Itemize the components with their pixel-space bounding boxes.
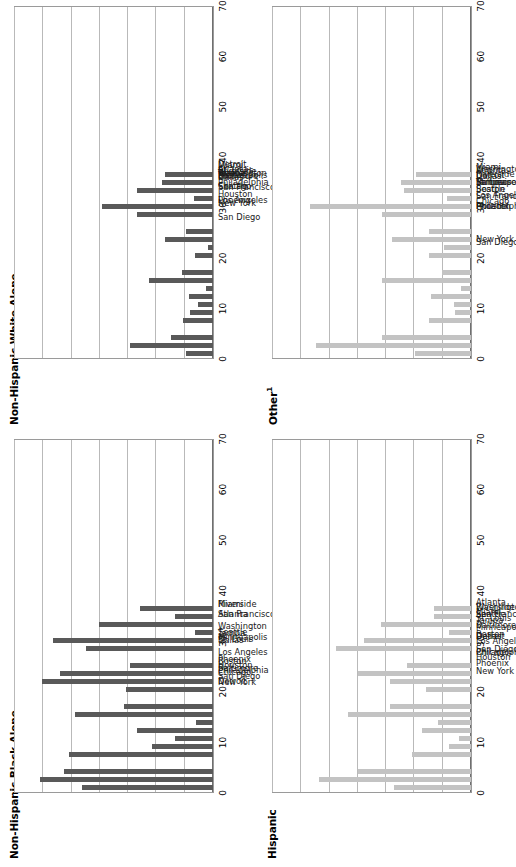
bar-group — [273, 605, 471, 653]
bar — [64, 770, 213, 775]
bar — [102, 205, 213, 210]
group-spacer — [273, 219, 471, 228]
bar — [186, 352, 213, 357]
bar — [99, 623, 213, 628]
category-axis-labels: BostonNew YorkPhiladelphiaBaltimoreWashi… — [216, 6, 258, 359]
category-label: Minneapolis — [476, 622, 516, 632]
bar-group — [15, 269, 213, 325]
category-label: Seattle — [476, 609, 505, 619]
bar — [69, 753, 213, 758]
panel-non-hispanic-black-alone: Non-Hispanic Black Alone 010203040506070… — [0, 433, 258, 867]
bar — [165, 238, 213, 243]
bar — [194, 197, 213, 202]
plot-area — [14, 439, 214, 793]
bar — [392, 238, 471, 243]
category-label: Phoenix — [476, 201, 509, 211]
bar — [152, 745, 213, 750]
bar — [390, 705, 471, 710]
bar — [434, 615, 471, 620]
bar — [449, 631, 471, 636]
group-spacer — [273, 260, 471, 269]
category-label: Riverside — [218, 599, 257, 609]
plot-area — [272, 439, 472, 793]
bar — [449, 745, 471, 750]
bar — [412, 753, 471, 758]
category-label: Riverside — [476, 169, 515, 179]
bar — [189, 295, 213, 300]
category-label: Seattle — [218, 181, 247, 191]
bar — [382, 336, 471, 341]
bar — [336, 647, 471, 652]
bar — [137, 189, 213, 194]
bar — [186, 230, 213, 235]
category-axis-labels: BostonNew YorkPhiladelphiaBaltimoreWashi… — [474, 439, 516, 793]
group-spacer — [273, 759, 471, 768]
category-axis-labels: BostonNew YorkPhiladelphiaBaltimoreWashi… — [216, 439, 258, 793]
bar — [195, 631, 213, 636]
bar — [429, 319, 471, 324]
bar — [461, 287, 471, 292]
bar-group — [273, 662, 471, 694]
bar — [319, 778, 471, 783]
group-spacer — [15, 325, 213, 334]
bar — [444, 246, 471, 251]
bar — [40, 778, 213, 783]
bar — [171, 336, 213, 341]
category-label: Los Angeles — [476, 636, 516, 646]
bar-group — [273, 171, 471, 219]
bar — [431, 295, 471, 300]
bar — [442, 271, 471, 276]
bar-group — [273, 768, 471, 792]
bar — [358, 672, 471, 677]
bar — [407, 664, 471, 669]
bar — [124, 705, 213, 710]
category-label: San Diego — [476, 237, 516, 247]
bar — [404, 189, 471, 194]
category-label: San Diego — [218, 212, 260, 222]
bar-group — [273, 228, 471, 260]
panel-non-hispanic-white-alone: Non-Hispanic White Alone 010203040506070… — [0, 0, 258, 433]
bar-group — [15, 768, 213, 792]
panel-hispanic: Hispanic 010203040506070 BostonNew YorkP… — [258, 433, 516, 867]
bar — [82, 786, 213, 791]
bar — [364, 639, 471, 644]
bar-group — [273, 269, 471, 325]
plot-area — [14, 6, 214, 359]
bar — [416, 173, 471, 178]
bar — [206, 287, 213, 292]
bar — [429, 254, 471, 259]
bar — [190, 311, 213, 316]
bar — [310, 205, 471, 210]
bar — [137, 729, 213, 734]
bar — [447, 197, 471, 202]
bar — [316, 344, 471, 349]
group-spacer — [15, 219, 213, 228]
plot-area — [272, 6, 472, 359]
bar — [348, 713, 471, 718]
bar — [454, 303, 471, 308]
group-spacer — [273, 694, 471, 703]
bar — [422, 729, 471, 734]
group-spacer — [15, 694, 213, 703]
chart-title-footnote-marker: 1 — [266, 387, 274, 392]
bar — [195, 254, 213, 259]
bar — [429, 230, 471, 235]
category-label: Phoenix — [476, 658, 509, 668]
bar — [183, 319, 213, 324]
bar-group — [15, 228, 213, 260]
bar — [438, 721, 471, 726]
category-axis-labels: BostonNew YorkPhiladelphiaBaltimoreWashi… — [474, 6, 516, 359]
bar — [390, 680, 471, 685]
group-spacer — [273, 325, 471, 334]
bar — [75, 713, 213, 718]
category-label: Seattle — [218, 627, 247, 637]
panel-other: Other1 010203040506070 BostonNew YorkPhi… — [258, 0, 516, 433]
bar — [165, 173, 213, 178]
bar — [42, 680, 213, 685]
bar-group — [273, 334, 471, 358]
chart-title: Other1 — [266, 387, 279, 425]
figure-canvas: Non-Hispanic White Alone 010203040506070… — [0, 0, 516, 867]
bar — [162, 181, 213, 186]
bar — [358, 770, 471, 775]
bar — [208, 246, 213, 251]
